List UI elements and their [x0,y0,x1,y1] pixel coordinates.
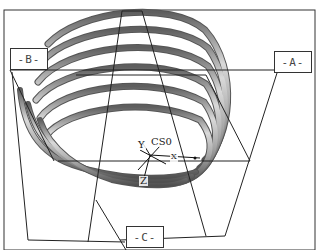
axis-z-label: Z [139,176,148,186]
spring-model[interactable] [20,12,228,185]
datum-label-c-text: -C- [134,231,157,244]
model-graphics[interactable] [0,0,321,250]
datum-label-a[interactable]: -A- [274,51,312,73]
axis-y-label: Y [137,140,146,150]
axis-x-label: X [170,152,178,162]
csys-name-label[interactable]: CS0 [150,137,173,147]
cad-viewport[interactable]: -B- -A- -C- Y CS0 X Z [0,0,321,250]
datum-label-a-text: -A- [282,56,305,69]
datum-label-b[interactable]: -B- [10,48,48,70]
datum-point [194,157,197,160]
datum-label-b-text: -B- [18,53,41,66]
datum-label-c[interactable]: -C- [126,226,164,248]
